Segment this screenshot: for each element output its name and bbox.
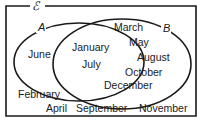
element-april: April [46,102,67,114]
element-november: November [139,102,188,114]
element-june: June [28,48,51,60]
set-a-label: A [37,21,45,33]
element-may: May [129,36,150,48]
element-october: October [125,66,163,78]
element-july: July [82,58,101,70]
venn-diagram: ℰ A B June January July March May August… [0,0,202,122]
element-august: August [137,51,170,63]
element-september: September [76,102,128,114]
element-december: December [104,79,153,91]
element-january: January [72,41,110,53]
set-b-label: B [163,22,170,34]
element-february: February [18,88,61,100]
element-march: March [114,21,143,33]
universal-set-label: ℰ [32,0,41,13]
